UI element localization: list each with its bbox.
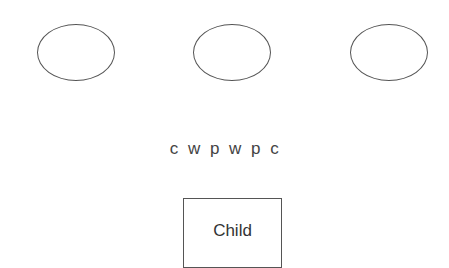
child-label: Child bbox=[213, 221, 252, 241]
ellipse-node-3 bbox=[350, 24, 428, 81]
ellipse-node-2 bbox=[193, 24, 271, 81]
child-node: Child bbox=[183, 198, 282, 268]
ellipse-node-1 bbox=[37, 24, 115, 81]
middle-text: c w p w p c bbox=[0, 139, 449, 159]
